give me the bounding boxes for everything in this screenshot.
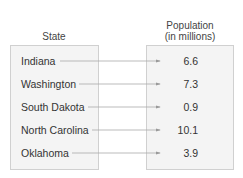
- population-value: 0.9: [158, 101, 198, 113]
- state-label: South Dakota: [21, 101, 85, 113]
- state-label: Oklahoma: [21, 147, 69, 159]
- state-label: North Carolina: [21, 124, 89, 136]
- population-value: 6.6: [158, 55, 198, 67]
- state-label: Washington: [21, 78, 76, 90]
- state-label: Indiana: [21, 55, 55, 67]
- population-value: 7.3: [158, 78, 198, 90]
- population-value: 10.1: [158, 124, 198, 136]
- population-value: 3.9: [158, 147, 198, 159]
